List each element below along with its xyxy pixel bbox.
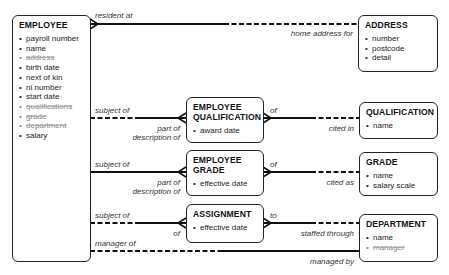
attribute-list: name — [366, 121, 431, 131]
attribute: name — [366, 233, 431, 243]
attribute: name — [366, 121, 431, 131]
attribute: detail — [365, 53, 431, 63]
attribute: number — [365, 34, 431, 44]
label-description-of: description of — [120, 187, 180, 196]
attribute: effective date — [193, 223, 257, 233]
attribute: payroll number — [19, 34, 84, 44]
attribute: salary scale — [366, 181, 431, 191]
attribute-list: effective date — [193, 223, 257, 233]
attribute: salary — [19, 131, 84, 141]
attribute: award date — [193, 126, 257, 136]
entity-department[interactable]: DEPARTMENT name manager — [359, 214, 438, 262]
entity-assignment[interactable]: ASSIGNMENT effective date — [186, 204, 264, 243]
attribute-removed: grade — [19, 112, 84, 122]
entity-title: DEPARTMENT — [366, 219, 431, 229]
attribute: start date — [19, 92, 84, 102]
label-to: to — [270, 211, 277, 220]
label-of: of — [270, 160, 277, 169]
attribute-list: award date — [193, 126, 257, 136]
attribute-list: number postcode detail — [365, 34, 431, 63]
label-staffed-through: staffed through — [280, 229, 354, 238]
label-managed-by: managed by — [290, 257, 354, 266]
attribute-removed: manager — [366, 243, 431, 253]
label-cited-in: cited in — [300, 124, 354, 133]
attribute-list: payroll number name address birth date n… — [19, 34, 84, 141]
title-line: EMPLOYEE — [193, 155, 257, 165]
attribute: name — [19, 44, 84, 54]
attribute: next of kin — [19, 73, 84, 83]
title-line: EMPLOYEE — [193, 102, 257, 112]
entity-grade[interactable]: GRADE name salary scale — [359, 152, 438, 196]
entity-title: EMPLOYEE QUALIFICATION — [193, 102, 257, 122]
title-line: QUALIFICATION — [193, 112, 257, 122]
label-subject-of: subject of — [95, 106, 129, 115]
entity-title: EMPLOYEE — [19, 20, 84, 30]
label-resident-at: resident at — [95, 11, 132, 20]
label-subject-of: subject of — [95, 160, 129, 169]
label-subject-of: subject of — [95, 211, 129, 220]
label-description-of: description of — [120, 133, 180, 142]
attribute: birth date — [19, 63, 84, 73]
entity-title: QUALIFICATION — [366, 107, 431, 117]
attribute: name — [366, 171, 431, 181]
label-part-of: part of — [120, 178, 180, 187]
label-part-of: part of — [120, 124, 180, 133]
entity-employee[interactable]: EMPLOYEE payroll number name address bir… — [12, 15, 91, 262]
attribute-list: name salary scale — [366, 171, 431, 190]
attribute-removed: department — [19, 121, 84, 131]
attribute: ni number — [19, 83, 84, 93]
label-home-address-for: home address for — [283, 29, 353, 38]
attribute: postcode — [365, 44, 431, 54]
attribute: effective date — [193, 179, 257, 189]
entity-title: ASSIGNMENT — [193, 209, 257, 219]
label-manager-of: manager of — [95, 239, 135, 248]
attribute-removed: qualifications — [19, 102, 84, 112]
label-of: of — [160, 229, 180, 238]
entity-address[interactable]: ADDRESS number postcode detail — [358, 15, 438, 72]
attribute-removed: address — [19, 53, 84, 63]
entity-employee-qualification[interactable]: EMPLOYEE QUALIFICATION award date — [186, 97, 264, 143]
label-cited-as: cited as — [300, 178, 354, 187]
entity-title: GRADE — [366, 157, 431, 167]
title-line: GRADE — [193, 165, 257, 175]
entity-qualification[interactable]: QUALIFICATION name — [359, 102, 438, 139]
attribute-list: name manager — [366, 233, 431, 252]
attribute-list: effective date — [193, 179, 257, 189]
entity-employee-grade[interactable]: EMPLOYEE GRADE effective date — [186, 150, 264, 196]
entity-title: ADDRESS — [365, 20, 431, 30]
label-of: of — [270, 106, 277, 115]
entity-title: EMPLOYEE GRADE — [193, 155, 257, 175]
